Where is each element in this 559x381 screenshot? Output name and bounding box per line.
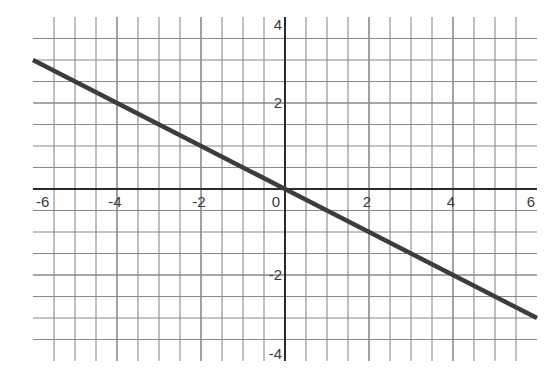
x-tick-label: 4 [447, 193, 455, 210]
y-tick-label: -2 [269, 266, 282, 283]
x-tick-label: 6 [527, 193, 535, 210]
coordinate-plane-chart: -6-4-2024642-2-4 y = -0.5x [0, 0, 559, 381]
x-tick-label: 2 [363, 193, 371, 210]
x-tick-label: -6 [36, 193, 49, 210]
y-tick-label: -4 [269, 345, 282, 362]
y-tick-label: 2 [274, 94, 282, 111]
x-tick-label: -4 [108, 193, 121, 210]
x-tick-label: -2 [192, 193, 205, 210]
y-tick-label: 4 [274, 16, 282, 33]
chart-svg: -6-4-2024642-2-4 [0, 0, 559, 381]
x-tick-label: 0 [272, 193, 280, 210]
